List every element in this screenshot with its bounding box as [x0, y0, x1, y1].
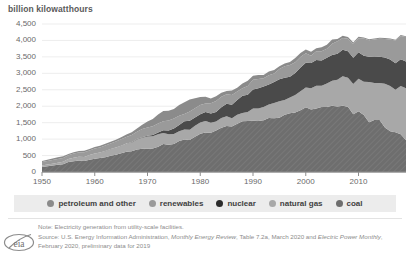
x-tick-label: 1950 — [33, 177, 51, 186]
legend-swatch-icon — [336, 200, 343, 207]
legend-label: renewables — [160, 199, 204, 208]
legend-label: petroleum and other — [58, 199, 135, 208]
y-tick-label: 500 — [0, 151, 36, 160]
legend-item-coal[interactable]: coal — [336, 199, 363, 208]
y-tick-label: 2,000 — [0, 101, 36, 110]
y-tick-label: 1,500 — [0, 118, 36, 127]
stacked-area-chart — [0, 16, 410, 190]
legend-label: natural gas — [280, 199, 323, 208]
svg-text:eia: eia — [13, 239, 25, 249]
legend-item-renewables[interactable]: renewables — [149, 199, 204, 208]
legend-item-natural-gas[interactable]: natural gas — [269, 199, 323, 208]
x-tick-label: 2000 — [297, 177, 315, 186]
chart-plot-area: 05001,0001,5002,0002,5003,0003,5004,0004… — [0, 16, 410, 190]
footer-source: Source: U.S. Energy Information Administ… — [38, 232, 406, 251]
y-tick-label: 4,500 — [0, 19, 36, 28]
y-tick-label: 4,000 — [0, 35, 36, 44]
legend-item-nuclear[interactable]: nuclear — [216, 199, 255, 208]
x-tick-label: 1990 — [244, 177, 262, 186]
y-tick-label: 3,000 — [0, 68, 36, 77]
chart-legend: petroleum and otherrenewablesnuclearnatu… — [14, 195, 396, 212]
footer-notes: Note: Electricity generation from utilit… — [38, 222, 406, 251]
legend-swatch-icon — [269, 200, 276, 207]
source-mid: , Table 7.2a, March 2020 and — [236, 233, 318, 240]
source-publication-2: Electric Power Monthly — [318, 233, 381, 240]
footer-divider — [8, 218, 402, 219]
x-tick-label: 2010 — [350, 177, 368, 186]
source-prefix: Source: U.S. Energy Information Administ… — [38, 233, 171, 240]
legend-swatch-icon — [149, 200, 156, 207]
y-tick-label: 3,500 — [0, 52, 36, 61]
x-tick-label: 1970 — [139, 177, 157, 186]
x-tick-label: 1960 — [86, 177, 104, 186]
y-tick-label: 2,500 — [0, 85, 36, 94]
legend-swatch-icon — [216, 200, 223, 207]
legend-swatch-icon — [47, 200, 54, 207]
eia-logo: eia — [2, 231, 36, 253]
y-tick-label: 1,000 — [0, 134, 36, 143]
legend-label: nuclear — [227, 199, 255, 208]
x-tick-label: 1980 — [191, 177, 209, 186]
legend-label: coal — [347, 199, 363, 208]
footer-note: Note: Electricity generation from utilit… — [38, 222, 406, 232]
source-publication-1: Monthly Energy Review — [171, 233, 236, 240]
y-tick-label: 0 — [0, 167, 36, 176]
legend-item-petroleum-and-other[interactable]: petroleum and other — [47, 199, 135, 208]
y-axis-title: billion kilowatthours — [8, 4, 93, 14]
